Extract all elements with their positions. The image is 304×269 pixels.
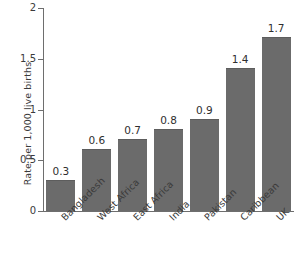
bar-value-label: 0.6 bbox=[72, 135, 121, 146]
bar-value-label: 1.7 bbox=[252, 23, 301, 34]
bar-chart: Rate per 1,000 live births 00.511.52 0.3… bbox=[0, 0, 304, 269]
bar-value-label: 1.4 bbox=[216, 54, 265, 65]
bar-value-label: 0.8 bbox=[144, 115, 193, 126]
bar-value-label: 0.9 bbox=[180, 105, 229, 116]
y-tick-label: 0.5 bbox=[0, 155, 36, 165]
bar bbox=[190, 119, 219, 211]
y-tick-label: 1 bbox=[0, 105, 36, 115]
bar-value-label: 0.7 bbox=[108, 125, 157, 136]
y-tick-label: 0 bbox=[0, 206, 36, 216]
y-axis-title: Rate per 1,000 live births bbox=[22, 39, 33, 209]
y-tick-label: 2 bbox=[0, 3, 36, 13]
y-tick-mark bbox=[38, 211, 43, 212]
bar-value-label: 0.3 bbox=[36, 166, 85, 177]
y-tick-label: 1.5 bbox=[0, 54, 36, 64]
